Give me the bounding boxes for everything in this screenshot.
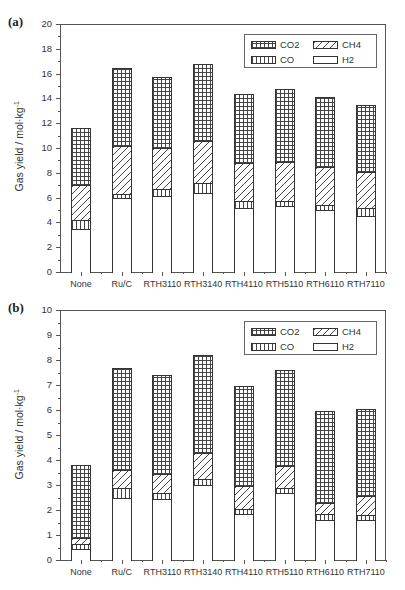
x-tick-label: RTH7110 [342, 567, 390, 577]
bar-none [71, 310, 91, 560]
diagonal-swatch-icon [313, 328, 338, 336]
y-tick [56, 410, 60, 411]
legend: CO2 CH4 CO H2 [244, 321, 377, 355]
y-tick-label: 2 [30, 504, 52, 515]
x-tick [122, 560, 123, 564]
x-minor-tick [101, 560, 102, 562]
y-minor-tick [58, 323, 60, 324]
y-tick [56, 310, 60, 311]
bar-segment-ch4 [152, 474, 172, 494]
x-minor-tick [264, 560, 265, 562]
y-tick-label: 9 [30, 329, 52, 340]
x-minor-tick [305, 560, 306, 562]
y-minor-tick [58, 523, 60, 524]
x-minor-tick [183, 560, 184, 562]
x-minor-tick [346, 560, 347, 562]
y-tick [56, 510, 60, 511]
bar-segment-co2 [193, 355, 213, 454]
legend-item-ch4: CH4 [313, 326, 361, 337]
bar-segment-ch4 [315, 503, 335, 515]
bar-segment-co [152, 493, 172, 500]
panel-label: (b) [8, 300, 24, 316]
y-tick [56, 535, 60, 536]
y-tick-label: 3 [30, 479, 52, 490]
bar-segment-ch4 [112, 470, 132, 489]
x-minor-tick [386, 560, 387, 562]
x-tick [285, 560, 286, 564]
y-tick-label: 6 [30, 404, 52, 415]
bar-rth3140 [193, 310, 213, 560]
y-tick [56, 560, 60, 561]
bar-rth3110 [152, 310, 172, 560]
bar-segment-co2 [234, 386, 254, 487]
legend-item-co2: CO2 [251, 326, 300, 337]
x-tick [366, 560, 367, 564]
y-minor-tick [58, 498, 60, 499]
panel-b: (b) Gas yield / mol·kg-1 012345678910 No… [0, 0, 405, 590]
bar-segment-h2 [275, 493, 295, 562]
y-tick-label: 1 [30, 529, 52, 540]
y-tick [56, 385, 60, 386]
bar-segment-co2 [152, 375, 172, 475]
y-tick-label: 8 [30, 354, 52, 365]
bar-segment-co2 [71, 465, 91, 539]
x-tick [325, 560, 326, 564]
bar-segment-ch4 [193, 453, 213, 480]
bar-segment-h2 [152, 499, 172, 561]
y-minor-tick [58, 473, 60, 474]
x-minor-tick [142, 560, 143, 562]
bar-segment-co [112, 488, 132, 499]
y-axis-label: Gas yield / mol·kg-1 [13, 379, 26, 489]
y-minor-tick [58, 423, 60, 424]
y-tick-label: 10 [30, 304, 52, 315]
x-minor-tick [223, 560, 224, 562]
y-minor-tick [58, 448, 60, 449]
bar-segment-co [193, 479, 213, 486]
y-tick-label: 5 [30, 429, 52, 440]
y-tick [56, 485, 60, 486]
bar-segment-co [315, 514, 335, 521]
bar-ru-c [112, 310, 132, 560]
x-tick [162, 560, 163, 564]
bar-segment-h2 [112, 498, 132, 562]
blank-swatch-icon [313, 343, 338, 351]
bar-segment-co2 [356, 409, 376, 498]
y-minor-tick [58, 348, 60, 349]
y-minor-tick [58, 398, 60, 399]
y-tick [56, 460, 60, 461]
x-tick [81, 560, 82, 564]
bar-segment-ch4 [356, 496, 376, 516]
y-tick [56, 360, 60, 361]
legend-item-h2: H2 [313, 341, 354, 352]
y-tick-label: 4 [30, 454, 52, 465]
crosshatch-swatch-icon [251, 328, 276, 336]
bar-segment-co2 [112, 368, 132, 472]
vertical-lines-swatch-icon [251, 343, 276, 351]
bar-segment-h2 [315, 520, 335, 561]
y-tick-label: 7 [30, 379, 52, 390]
bar-segment-ch4 [71, 538, 91, 545]
bar-segment-co2 [275, 370, 295, 467]
x-tick [203, 560, 204, 564]
bar-segment-co2 [315, 411, 335, 503]
y-tick [56, 335, 60, 336]
y-tick-label: 0 [30, 554, 52, 565]
y-tick [56, 435, 60, 436]
y-minor-tick [58, 548, 60, 549]
bar-segment-h2 [356, 520, 376, 561]
bar-segment-ch4 [234, 486, 254, 510]
legend-item-co: CO [251, 341, 294, 352]
y-minor-tick [58, 373, 60, 374]
bar-segment-ch4 [275, 466, 295, 488]
bar-segment-h2 [234, 514, 254, 561]
bar-segment-h2 [193, 485, 213, 561]
x-tick [244, 560, 245, 564]
